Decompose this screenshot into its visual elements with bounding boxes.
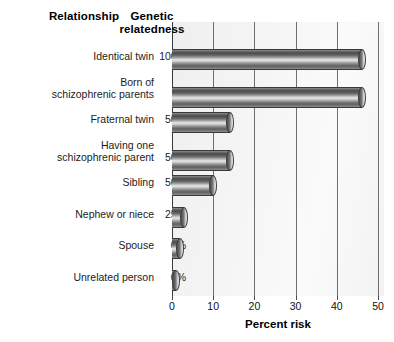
chart-row: Nephew or niece25% bbox=[0, 206, 394, 240]
column-header-genetic-relatedness: Genetic relatedness bbox=[118, 10, 186, 36]
column-header-genetic-line1: Genetic bbox=[131, 10, 174, 22]
chart-row: Having oneschizophrenic parent50% bbox=[0, 143, 394, 177]
bar-end-cap bbox=[209, 175, 217, 196]
bar bbox=[172, 112, 230, 133]
bar bbox=[172, 270, 176, 291]
x-axis-tick-label-0: 0 bbox=[157, 300, 187, 312]
row-label: Having oneschizophrenic parent bbox=[4, 139, 154, 163]
row-label: Identical twin bbox=[4, 50, 154, 62]
row-label-line1: Having one bbox=[101, 139, 154, 151]
x-axis-tick-label-20: 20 bbox=[239, 300, 269, 312]
row-label: Fraternal twin bbox=[4, 113, 154, 125]
row-label: Sibling bbox=[4, 176, 154, 188]
bar bbox=[172, 150, 230, 171]
x-axis-tick-label-40: 40 bbox=[322, 300, 352, 312]
bar-end-cap bbox=[358, 87, 366, 108]
bar bbox=[172, 49, 362, 70]
bar-end-cap bbox=[180, 207, 188, 228]
row-label: Born ofschizophrenic parents bbox=[4, 76, 154, 100]
bar-end-cap bbox=[226, 150, 234, 171]
chart-row: Unrelated person0% bbox=[0, 269, 394, 303]
bar bbox=[172, 238, 180, 259]
row-label: Nephew or niece bbox=[4, 208, 154, 220]
chart-row: Born ofschizophrenic parents-- bbox=[0, 80, 394, 114]
x-axis-title: Percent risk bbox=[172, 318, 384, 330]
bar-end-cap bbox=[358, 49, 366, 70]
column-header-genetic-line2: relatedness bbox=[119, 23, 184, 35]
row-genetic-relatedness-value: 0% bbox=[156, 271, 186, 283]
bar-end-cap bbox=[176, 238, 184, 259]
row-label-line1: Born of bbox=[120, 76, 154, 88]
chart-row: Spouse0% bbox=[0, 237, 394, 271]
row-label-line2: schizophrenic parent bbox=[57, 151, 154, 163]
bar bbox=[172, 175, 213, 196]
x-axis-tick-label-50: 50 bbox=[363, 300, 393, 312]
x-axis-tick-label-10: 10 bbox=[198, 300, 228, 312]
x-axis-tick-label-30: 30 bbox=[281, 300, 311, 312]
chart-row: Sibling50% bbox=[0, 174, 394, 208]
row-label-line2: schizophrenic parents bbox=[52, 88, 154, 100]
bar bbox=[172, 207, 184, 228]
bar-end-cap bbox=[172, 270, 180, 291]
bar bbox=[172, 87, 362, 108]
bar-end-cap bbox=[226, 112, 234, 133]
schizophrenia-risk-chart: Relationship Genetic relatedness Identic… bbox=[0, 0, 394, 342]
row-label: Spouse bbox=[4, 239, 154, 251]
row-label: Unrelated person bbox=[4, 271, 154, 283]
